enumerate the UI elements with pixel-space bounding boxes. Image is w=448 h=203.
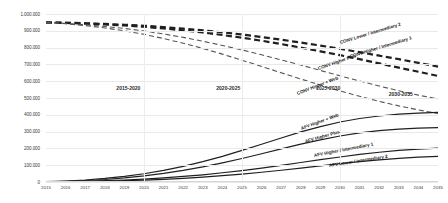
x-tick-label: 2016 — [61, 185, 71, 190]
x-tick-label: 2020 — [139, 185, 149, 190]
chart-container: 0100.000200.000300.000400.000500.000600.… — [0, 0, 448, 203]
x-tick-label: 2015 — [41, 185, 51, 190]
x-tick-label: 2035 — [433, 185, 443, 190]
x-tick-label: 2023 — [198, 185, 208, 190]
x-tick-label: 2027 — [276, 185, 286, 190]
y-tick-label: 900.000 — [24, 28, 40, 33]
x-tick-label: 2022 — [178, 185, 188, 190]
x-tick-label: 2028 — [296, 185, 306, 190]
x-gridline — [144, 14, 145, 182]
y-tick-label: 200.000 — [24, 146, 40, 151]
y-tick-label: 100.000 — [24, 163, 40, 168]
x-tick-label: 2033 — [394, 185, 404, 190]
x-tick-label: 2021 — [159, 185, 169, 190]
y-tick-label: 1.000.000 — [20, 12, 40, 17]
y-tick-label: 400.000 — [24, 112, 40, 117]
x-axis-line — [46, 181, 438, 182]
y-gridline — [46, 182, 438, 183]
x-tick-label: 2034 — [414, 185, 424, 190]
y-axis: 0100.000200.000300.000400.000500.000600.… — [0, 14, 44, 182]
x-tick-label: 2017 — [80, 185, 90, 190]
x-tick-label: 2029 — [316, 185, 326, 190]
y-tick-label: 300.000 — [24, 129, 40, 134]
x-tick-label: 2024 — [218, 185, 228, 190]
period-annotation: 2030-2035 — [389, 91, 413, 97]
x-tick-label: 2019 — [120, 185, 130, 190]
y-tick-label: 800.000 — [24, 45, 40, 50]
x-tick-label: 2032 — [374, 185, 384, 190]
period-annotation: 2015-2020 — [116, 85, 140, 91]
y-tick-label: 600.000 — [24, 79, 40, 84]
y-tick-label: 700.000 — [24, 62, 40, 67]
x-tick-label: 2031 — [355, 185, 365, 190]
x-tick-label: 2025 — [237, 185, 247, 190]
x-tick-label: 2030 — [335, 185, 345, 190]
x-tick-label: 2026 — [257, 185, 267, 190]
y-tick-label: 0 — [38, 180, 40, 185]
y-tick-label: 500.000 — [24, 96, 40, 101]
period-annotation: 2020-2025 — [216, 85, 240, 91]
x-tick-label: 2018 — [100, 185, 110, 190]
x-gridline — [242, 14, 243, 182]
x-axis: 2015201620172018201920202021202220232024… — [46, 185, 438, 199]
